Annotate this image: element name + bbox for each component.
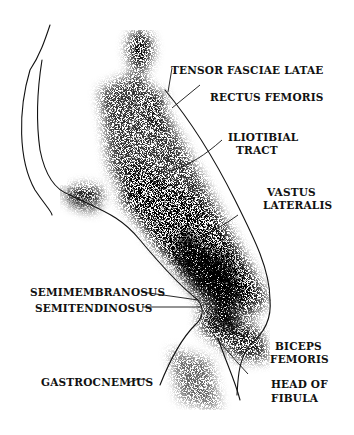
label-biceps-femoris-line2: FEMORIS: [270, 353, 329, 365]
label-iliotibial-tract-line2: TRACT: [236, 144, 278, 156]
label-head-of-fibula-line2: FIBULA: [271, 392, 318, 404]
label-biceps-femoris-line1: BICEPS: [275, 340, 322, 352]
anatomy-figure: TENSOR FASCIAE LATAE RECTUS FEMORIS ILIO…: [0, 0, 354, 435]
label-semimembranosus: SEMIMEMBRANOSUS: [30, 286, 165, 298]
label-tensor-fasciae-latae: TENSOR FASCIAE LATAE: [171, 64, 324, 76]
label-head-of-fibula-line1: HEAD OF: [271, 378, 328, 390]
label-rectus-femoris: RECTUS FEMORIS: [210, 91, 324, 103]
label-vastus-lateralis-line2: LATERALIS: [263, 199, 332, 211]
label-gastrocnemius: GASTROCNEMIUS: [41, 376, 153, 388]
label-vastus-lateralis-line1: VASTUS: [267, 186, 316, 198]
label-iliotibial-tract-line1: ILIOTIBIAL: [228, 131, 298, 143]
label-semitendinosus: SEMITENDINOSUS: [35, 302, 152, 314]
